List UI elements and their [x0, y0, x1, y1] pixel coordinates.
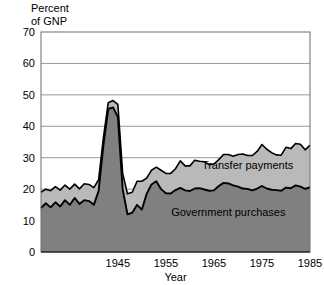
x-tick-label: 1965: [202, 257, 226, 269]
x-tick-label: 1955: [154, 257, 178, 269]
x-axis-title: Year: [164, 271, 187, 283]
x-tick-label: 1945: [106, 257, 130, 269]
y-tick-label: 40: [23, 120, 35, 132]
chart-figure: Percent of GNP 010203040506070 194519551…: [0, 0, 324, 285]
x-tick-label: 1975: [250, 257, 274, 269]
y-tick-label: 60: [23, 57, 35, 69]
area-series-group: [41, 101, 310, 252]
y-axis-tick-labels: 010203040506070: [23, 26, 35, 258]
y-tick-label: 50: [23, 89, 35, 101]
y-tick-label: 20: [23, 183, 35, 195]
series-annotation: Government purchases: [171, 206, 286, 218]
area-chart: 010203040506070 19451955196519751985 Tra…: [0, 0, 324, 285]
x-tick-label: 1985: [298, 257, 322, 269]
y-tick-label: 0: [29, 246, 35, 258]
y-tick-label: 30: [23, 152, 35, 164]
x-axis-tick-labels: 19451955196519751985: [106, 257, 323, 269]
y-tick-label: 70: [23, 26, 35, 38]
y-tick-label: 10: [23, 215, 35, 227]
series-annotation: Transfer payments: [202, 159, 294, 171]
